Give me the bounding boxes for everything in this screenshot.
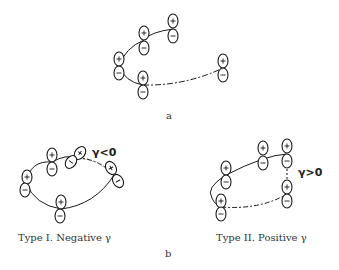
orbital-pair (138, 71, 148, 85)
type1-caption: Type I. Negative γ (18, 232, 111, 243)
orbital-diagram (0, 0, 339, 270)
orbital-pair (139, 26, 149, 40)
orbital-pair (168, 29, 178, 43)
gamma-negative-label: γ<0 (92, 146, 116, 159)
orbital-pair (114, 52, 124, 66)
orbital-pair (138, 85, 148, 99)
type2-caption: Type II. Positive γ (216, 232, 307, 243)
orbital-pair (114, 66, 124, 80)
orbital-pair (139, 41, 149, 55)
panel-a-label: a (166, 110, 172, 121)
panel-b-type2 (210, 139, 292, 221)
gamma-positive-label: γ>0 (298, 166, 322, 179)
orbital-pair (168, 14, 178, 28)
panel-a-chain (114, 14, 228, 99)
panel-b-label: b (165, 248, 171, 259)
orbital-pair (218, 54, 228, 68)
orbital-pair (218, 68, 228, 82)
